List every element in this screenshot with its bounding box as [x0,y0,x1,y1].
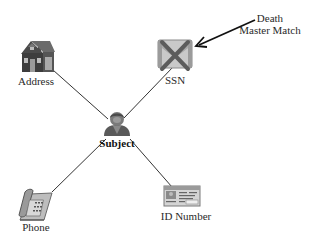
node-ssn[interactable] [156,37,194,73]
node-subject[interactable] [102,109,132,137]
annotation-death-line2: Master Match [236,25,304,36]
phone-icon [16,188,56,222]
house-icon [18,38,56,74]
node-phone[interactable] [16,188,56,222]
id-card-icon [163,185,201,207]
ssn-card-icon [156,37,194,73]
node-subject-label: Subject [94,137,140,149]
annotation-death-line1: Death [250,13,290,24]
node-id-number-label: ID Number [157,210,215,222]
link-diagram: Address SSN Death Master Match Subject [0,0,316,236]
node-id-number[interactable] [163,185,201,207]
node-ssn-label: SSN [160,74,190,86]
node-address[interactable] [18,38,56,74]
node-phone-label: Phone [16,221,56,233]
edge-subject-address [53,70,108,119]
person-icon [102,109,132,137]
node-address-label: Address [14,75,58,87]
